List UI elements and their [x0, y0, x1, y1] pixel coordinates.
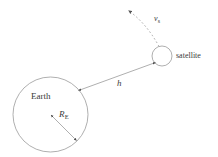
earth-radius-symbol: R: [59, 109, 65, 119]
earth-label: Earth: [31, 92, 51, 101]
altitude-label: h: [117, 79, 122, 88]
earth-radius-subscript: E: [65, 113, 69, 120]
satellite-label: satellite: [176, 52, 201, 60]
velocity-subscript: s: [158, 18, 160, 24]
earth-circle: [13, 77, 88, 152]
velocity-label: vs: [154, 15, 160, 24]
earth-radius-label: RE: [59, 110, 69, 120]
diagram-canvas: [0, 0, 218, 157]
satellite-orbit-diagram: Earth satellite h RE vs: [0, 0, 218, 157]
